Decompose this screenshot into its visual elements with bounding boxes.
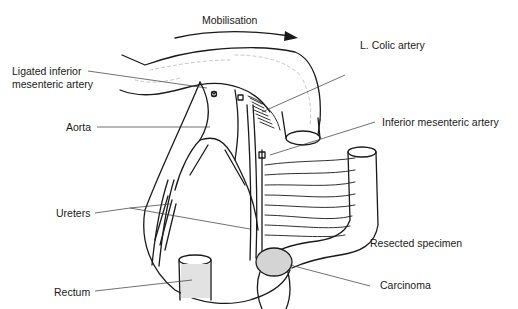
label-ligated-ima-line2: mesenteric artery bbox=[12, 78, 93, 90]
label-rectum: Rectum bbox=[54, 286, 90, 298]
diagram-canvas: Mobilisation Ligated inferior mesenteric… bbox=[0, 0, 518, 309]
carcinoma-mass bbox=[256, 248, 292, 276]
anatomy-drawing bbox=[0, 0, 518, 309]
resected-colon-top bbox=[348, 147, 376, 157]
label-mobilisation: Mobilisation bbox=[202, 14, 257, 26]
mobilisation-arrow bbox=[175, 32, 290, 38]
label-resected-specimen: Resected specimen bbox=[370, 237, 462, 249]
label-l-colic-artery: L. Colic artery bbox=[360, 39, 425, 51]
rectum bbox=[179, 255, 211, 265]
label-inferior-mesenteric-artery: Inferior mesenteric artery bbox=[382, 116, 499, 128]
label-ligated-ima-line1: Ligated inferior bbox=[12, 65, 81, 77]
ureter-right bbox=[247, 105, 251, 260]
label-aorta: Aorta bbox=[66, 121, 91, 133]
label-ureters: Ureters bbox=[56, 207, 90, 219]
label-carcinoma: Carcinoma bbox=[380, 279, 431, 291]
